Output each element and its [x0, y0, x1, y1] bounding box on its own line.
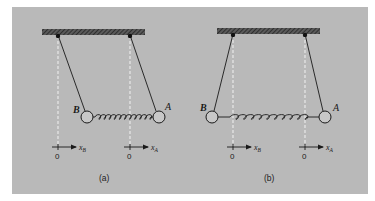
- mass-b-label: B: [72, 104, 80, 115]
- figure-background: [12, 7, 368, 194]
- axis-origin-label: 0: [230, 152, 235, 161]
- panel-caption: (a): [99, 173, 110, 183]
- mass-a-label: A: [164, 101, 172, 112]
- pivot-b: [56, 34, 60, 38]
- pivot-b: [231, 33, 235, 37]
- pivot-a: [303, 33, 307, 37]
- mass-a: [319, 111, 331, 123]
- mass-b-label: B: [199, 102, 207, 113]
- mass-b: [206, 111, 218, 123]
- axis-origin-label: 0: [127, 152, 132, 161]
- axis-origin-label: 0: [55, 152, 60, 161]
- axis-origin-label: 0: [302, 152, 307, 161]
- mass-a-label: A: [332, 102, 340, 113]
- pivot-a: [128, 34, 132, 38]
- mass-a: [153, 111, 165, 123]
- coupled-pendulum-figure: B A 0 xB 0 xA (a) B A: [0, 0, 375, 201]
- mass-b: [81, 111, 93, 123]
- panel-caption: (b): [264, 173, 275, 183]
